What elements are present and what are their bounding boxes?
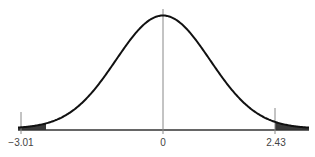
tick-label-left: −3.01 bbox=[8, 137, 33, 148]
tick-label-right: 2.43 bbox=[266, 137, 285, 148]
tick-label-center: 0 bbox=[160, 137, 166, 148]
normal-distribution-chart bbox=[0, 0, 315, 157]
